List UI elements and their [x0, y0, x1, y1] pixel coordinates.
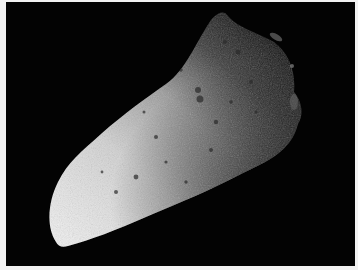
rim-highlight	[290, 64, 294, 68]
asteroid-body	[6, 2, 355, 266]
rim-highlight	[290, 94, 298, 110]
photo-frame	[6, 2, 355, 266]
asteroid-photo	[6, 2, 355, 266]
